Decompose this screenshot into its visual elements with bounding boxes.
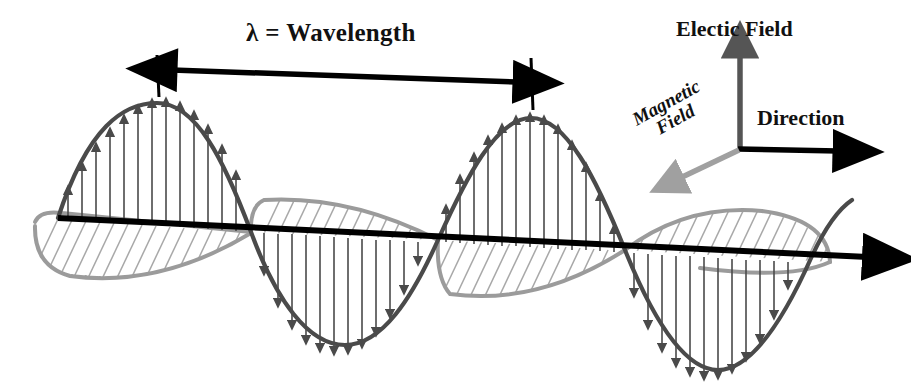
electric-field-arrows xyxy=(68,105,788,373)
magnetic-hatch-lobe-3 xyxy=(414,238,622,306)
wavelength-tick-right xyxy=(531,58,533,110)
wavelength-label: λ = Wavelength xyxy=(246,20,416,46)
wavelength-double-arrow xyxy=(172,70,518,82)
electric-field-label: Electic Field xyxy=(676,18,793,40)
wave-canvas xyxy=(0,0,911,391)
legend-magnetic-axis xyxy=(678,150,739,179)
magnetic-hatch-lobe-2 xyxy=(260,187,454,254)
legend-direction-axis xyxy=(738,149,838,151)
direction-label: Direction xyxy=(757,107,845,129)
wavelength-tick-left xyxy=(157,55,159,97)
em-wave-diagram: λ = Wavelength Electic Field Direction M… xyxy=(0,0,911,391)
wavelength-measure xyxy=(157,55,533,110)
magnetic-outline-lower-2 xyxy=(438,240,625,296)
